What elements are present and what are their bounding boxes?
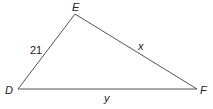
side-label-de: 21 bbox=[30, 44, 42, 56]
vertex-label-d: D bbox=[5, 84, 13, 96]
vertex-label-e: E bbox=[72, 1, 80, 13]
triangle-DEF bbox=[18, 14, 197, 89]
side-label-df: y bbox=[103, 92, 111, 104]
triangle-diagram: E D F 21 x y bbox=[0, 0, 213, 109]
vertex-label-f: F bbox=[200, 84, 208, 96]
side-label-ef: x bbox=[137, 40, 144, 52]
